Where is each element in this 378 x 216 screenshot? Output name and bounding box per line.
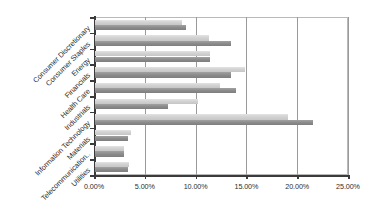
value-axis-tick bbox=[348, 175, 350, 179]
bar bbox=[95, 120, 313, 125]
value-axis-tick-label: 25.00% bbox=[336, 182, 360, 191]
value-axis-tick bbox=[246, 175, 248, 179]
bars-layer bbox=[95, 17, 348, 175]
bar bbox=[95, 25, 186, 30]
value-axis-tick bbox=[145, 175, 147, 179]
bar bbox=[95, 167, 128, 172]
bar bbox=[95, 151, 124, 156]
value-axis-tick bbox=[94, 175, 96, 179]
category-axis-tick bbox=[90, 128, 94, 130]
value-axis-line bbox=[94, 175, 349, 177]
value-axis-tick bbox=[196, 175, 198, 179]
category-axis-tick bbox=[90, 159, 94, 161]
bar-chart: 0.00%5.00%10.00%15.00%20.00%25.00% Consu… bbox=[0, 0, 378, 216]
category-axis-tick bbox=[90, 49, 94, 51]
value-axis-tick-label: 5.00% bbox=[135, 182, 155, 191]
value-axis-tick-label: 20.00% bbox=[285, 182, 309, 191]
value-axis-tick bbox=[297, 175, 299, 179]
category-axis-tick bbox=[90, 112, 94, 114]
bar bbox=[95, 136, 128, 141]
bar bbox=[95, 104, 168, 109]
bar bbox=[95, 72, 231, 77]
bar bbox=[95, 88, 236, 93]
category-axis-tick bbox=[90, 96, 94, 98]
category-axis-tick bbox=[90, 80, 94, 82]
category-axis-tick bbox=[90, 17, 94, 19]
bar bbox=[95, 41, 231, 46]
value-axis-tick-label: 15.00% bbox=[235, 182, 259, 191]
gridline bbox=[348, 17, 349, 175]
category-axis-tick bbox=[90, 143, 94, 145]
category-axis-tick bbox=[90, 33, 94, 35]
value-axis-tick-label: 10.00% bbox=[184, 182, 208, 191]
category-axis-tick bbox=[90, 64, 94, 66]
value-axis-tick-label: 0.00% bbox=[84, 182, 104, 191]
bar bbox=[95, 57, 210, 62]
